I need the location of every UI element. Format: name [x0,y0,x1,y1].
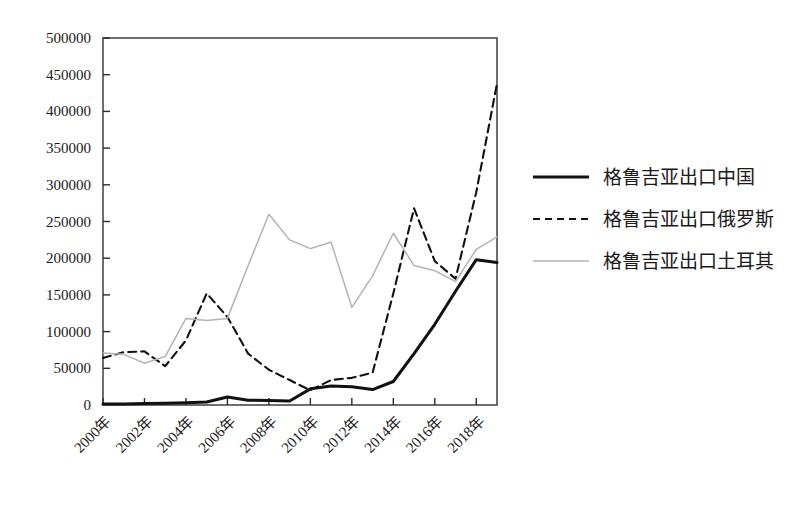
y-tick-label: 500000 [46,30,91,46]
y-tick-label: 0 [84,397,92,413]
legend-label-1: 格鲁吉亚出口中国 [603,167,755,188]
legend-label-3: 格鲁吉亚出口土耳其 [603,251,774,272]
y-tick-label: 50000 [54,360,92,376]
chart-figure: 0500001000001500002000002500003000003500… [0,0,805,508]
y-tick-label: 300000 [46,177,91,193]
y-tick-label: 400000 [46,103,91,119]
y-tick-label: 250000 [46,214,91,230]
y-tick-label: 100000 [46,324,91,340]
y-tick-label: 350000 [46,140,91,156]
y-tick-label: 200000 [46,250,91,266]
y-tick-label: 150000 [46,287,91,303]
y-tick-label: 450000 [46,67,91,83]
line-chart: 0500001000001500002000002500003000003500… [0,0,805,508]
legend-label-2: 格鲁吉亚出口俄罗斯 [603,209,774,230]
